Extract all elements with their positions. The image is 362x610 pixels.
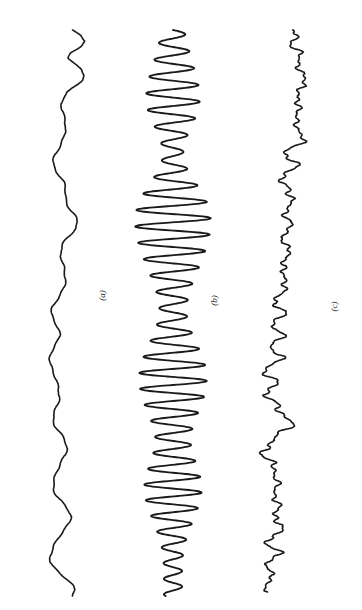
panel-label-c: (c) [330,302,339,312]
panel-label-a: (a) [98,290,107,301]
trace-c-path [260,30,307,592]
trace-a-path [49,30,85,596]
panel-label-b: (b) [210,295,219,306]
signal-traces-figure: (a) (b) (c) [0,0,362,610]
trace-b-path [135,30,210,596]
traces-canvas [0,0,362,610]
